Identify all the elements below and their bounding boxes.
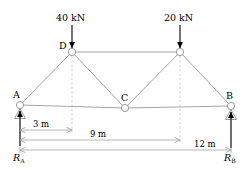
reaction-label-b: RB xyxy=(224,153,236,163)
load-label-40kn: 40 kN xyxy=(56,13,85,23)
member-C-E xyxy=(125,52,180,108)
member-A-D xyxy=(20,52,72,105)
joint-A xyxy=(16,101,23,108)
joint-B xyxy=(227,102,234,109)
reaction-label-a: RA xyxy=(13,153,25,163)
node-label-b: B xyxy=(226,91,233,101)
dimension-label-3m: 3 m xyxy=(33,120,49,129)
load-label-20kn: 20 kN xyxy=(164,13,193,23)
member-E-B xyxy=(180,52,231,106)
reaction-subscript-a: A xyxy=(20,157,24,164)
node-label-d: D xyxy=(59,41,67,51)
member-A-C xyxy=(20,105,125,108)
truss-diagram: 40 kN 20 kN D A C B 3 m 9 m 12 m RA RB xyxy=(0,0,247,170)
load-arrows xyxy=(72,25,180,48)
member-C-B xyxy=(125,106,231,108)
joint-C xyxy=(121,104,128,111)
dimension-label-9m: 9 m xyxy=(90,130,106,139)
joint-E xyxy=(176,48,183,55)
dimension-label-12m: 12 m xyxy=(194,140,216,149)
node-label-c: C xyxy=(121,93,128,103)
joint-D xyxy=(68,48,75,55)
node-label-a: A xyxy=(13,90,20,100)
reaction-subscript-b: B xyxy=(231,157,235,164)
member-D-C xyxy=(72,52,125,108)
